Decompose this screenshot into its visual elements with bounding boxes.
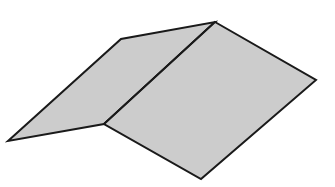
folded-sheet-diagram	[0, 0, 335, 187]
